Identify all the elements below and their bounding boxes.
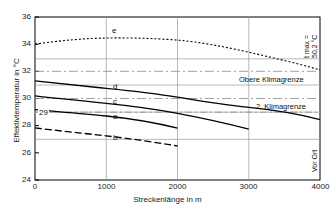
annotation-vor-ort: Vor Ort — [311, 150, 318, 172]
annotation-zweite-klimagrenze: 2. Klimagrenze — [256, 102, 306, 111]
x-tick-label-0: 0 — [23, 183, 47, 191]
curve-label-c: c — [113, 97, 117, 106]
curve-label-d: d — [113, 82, 117, 91]
chart-container: 36 34 32 30 28 26 24 0 1000 2000 3000 40… — [0, 0, 335, 209]
x-tick-label-2000: 2000 — [162, 183, 193, 191]
x-tick-label-1000: 1000 — [91, 183, 122, 191]
x-tick-label-3000: 3000 — [233, 183, 264, 191]
annotation-tmax-line1: t max = — [303, 35, 310, 58]
curve-label-e: e — [112, 26, 116, 35]
y-axis-title: Effektivtemperatur in °C — [12, 41, 21, 161]
y-tick-label-36: 36 — [12, 13, 31, 21]
annotation-tmax-line2: 50,2 °C — [311, 35, 318, 58]
curve-label-a: a — [113, 112, 117, 121]
annotation-obere-klimagrenze: Obere Klimagrenze — [239, 75, 304, 84]
x-tick-label-4000: 4000 — [305, 183, 335, 191]
curve-label-b: b — [113, 133, 117, 142]
x-axis-title: Streckenlänge in m — [0, 195, 335, 204]
reference-label-29: 29 — [38, 108, 49, 117]
